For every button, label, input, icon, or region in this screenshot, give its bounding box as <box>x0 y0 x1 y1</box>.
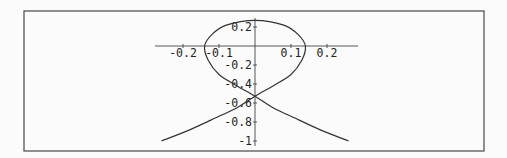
y-tick-label: -1 <box>238 134 252 148</box>
y-tick-label: -0.4 <box>224 77 252 91</box>
y-tick-label: 0.2 <box>231 20 252 34</box>
y-tick-labels: 0.2 -0.2 -0.4 -0.6 -0.8 -1 <box>224 20 252 148</box>
y-tick-label: -0.8 <box>224 115 252 129</box>
x-tick-label: -0.2 <box>169 46 197 60</box>
plot-canvas: -0.2 -0.1 0.1 0.2 0.2 -0.2 -0.4 -0.6 -0.… <box>0 0 507 158</box>
plot-frame <box>24 11 484 151</box>
y-tick-label: -0.2 <box>224 58 252 72</box>
x-tick-label: 0.2 <box>317 46 338 60</box>
y-tick-label: -0.6 <box>224 96 252 110</box>
x-tick-label: 0.1 <box>281 46 302 60</box>
x-tick-labels: -0.2 -0.1 0.1 0.2 <box>169 46 337 60</box>
